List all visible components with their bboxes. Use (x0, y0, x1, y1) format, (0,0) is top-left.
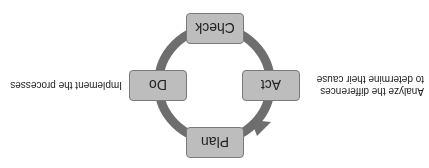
do-note: Implement the processes (10, 79, 122, 91)
step-plan: Plan (186, 127, 244, 158)
step-label: Act (261, 78, 281, 94)
step-label: Do (149, 78, 167, 94)
pdca-diagram: Plan Do Check Act Implement the processe… (0, 0, 429, 168)
cycle-arrowhead-icon (251, 120, 271, 136)
act-note-line1: Analyze the differences (317, 85, 424, 97)
act-note-line2: to determine their cause (317, 73, 424, 85)
step-act: Act (242, 70, 300, 101)
step-label: Plan (201, 135, 229, 151)
step-label: Check (195, 21, 235, 37)
step-check: Check (186, 13, 244, 44)
step-do: Do (129, 70, 187, 101)
act-note: Analyze the differences to determine the… (317, 73, 424, 97)
